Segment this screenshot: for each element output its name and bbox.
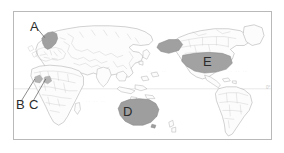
ocean-microtext-pacific-east: ·· ·· ·· (228, 69, 248, 74)
map-label-a: A (30, 20, 39, 33)
map-label-c: C (29, 98, 38, 111)
region-india (96, 67, 111, 87)
map-label-b: B (16, 98, 25, 111)
map-frame: ·· ·· ·· ·· ·· ·· ·· ·· ·· 0° (13, 11, 272, 140)
figure-canvas: ·· ·· ·· ·· ·· ·· ·· ·· ·· 0° A B C D E (0, 0, 284, 153)
landmass-africa (31, 65, 84, 125)
region-southeast-asia (116, 71, 159, 101)
map-label-e: E (203, 55, 212, 68)
ocean-microtext-indian: ·· ·· ·· (86, 99, 106, 104)
region-madagascar (75, 103, 81, 115)
map-label-d: D (123, 105, 132, 118)
region-new-zealand (169, 120, 176, 132)
edge-mark-equator-degree: 0° (266, 85, 270, 90)
ocean-microtext-pacific-west: ·· ·· ·· (147, 69, 167, 74)
region-central-america (205, 75, 237, 88)
world-map-graphic (14, 12, 271, 139)
